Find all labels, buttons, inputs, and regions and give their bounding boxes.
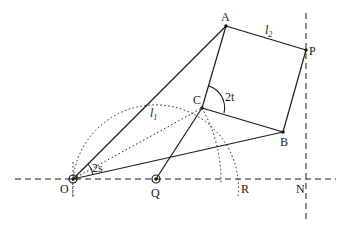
label-n: N [296,182,305,196]
linkage-diagram: A P B C O Q R N l1 l2 2t 2s [0,0,345,234]
joint-a [224,24,228,28]
link-bp [283,50,306,132]
angle-arc-2t [209,86,225,113]
dotted-arc-c-r [202,108,221,183]
link-ob [73,132,283,179]
label-c: C [193,93,201,107]
label-r: R [241,182,249,196]
label-p: P [309,44,316,58]
label-a: A [221,10,230,24]
joint-p [304,48,308,52]
diagram-svg: A P B C O Q R N l1 l2 2t 2s [0,0,345,234]
label-b: B [280,135,288,149]
label-q: Q [151,186,160,200]
pivot-q-dot [154,177,158,181]
label-o: O [60,182,69,196]
pivot-o-dot [71,177,75,181]
label-angle-2s: 2s [92,161,103,175]
joint-b [281,130,285,134]
link-cb [202,108,283,132]
label-angle-2t: 2t [225,90,235,104]
label-l1: l1 [150,106,157,122]
label-l2: l2 [265,23,272,39]
link-qc [156,108,202,179]
